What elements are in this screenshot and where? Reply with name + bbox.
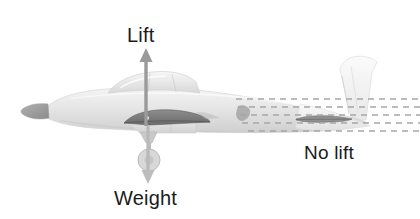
no-lift-label: No lift (304, 142, 354, 164)
lift-label: Lift (127, 24, 154, 47)
figure-canvas: Lift Weight No lift (0, 0, 420, 219)
airplane-diagram-svg (0, 0, 420, 219)
spinner-nose-cone (21, 104, 49, 119)
cockpit-canopy (108, 71, 200, 93)
weight-label: Weight (114, 187, 177, 210)
vertical-stabilizer (340, 56, 377, 120)
